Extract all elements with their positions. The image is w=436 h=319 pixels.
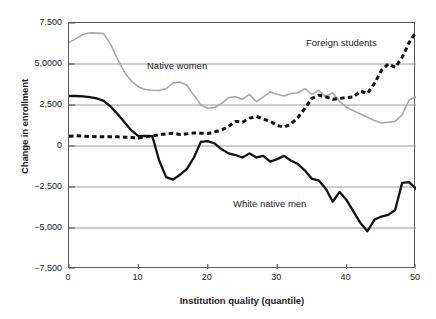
x-axis-title: Institution quality (quantile) [68, 295, 416, 306]
series-label-white-native-men: White native men [233, 198, 306, 209]
x-tick-label: 30 [256, 272, 296, 282]
chart-canvas [69, 23, 416, 269]
plot-area [68, 22, 415, 268]
series-label-native-women: Native women [147, 60, 207, 71]
y-tick-label: 5,0000 [10, 58, 62, 68]
y-tick-label: −2,500 [10, 181, 62, 191]
x-tick-label: 20 [187, 272, 227, 282]
x-tick-label: 40 [326, 272, 366, 282]
x-tick-label: 10 [117, 272, 157, 282]
x-tick-label: 0 [48, 272, 88, 282]
y-tick-label: 2,500 [10, 99, 62, 109]
y-tick-label: −5,000 [10, 222, 62, 232]
x-tick-label: 50 [395, 272, 435, 282]
series-label-foreign-students: Foreign students [306, 37, 377, 48]
y-tick-label: 7,500 [10, 17, 62, 27]
y-tick-label: 0 [10, 140, 62, 150]
chart-figure: Change in enrollment 7,5005,00002,5000−2… [0, 0, 436, 319]
